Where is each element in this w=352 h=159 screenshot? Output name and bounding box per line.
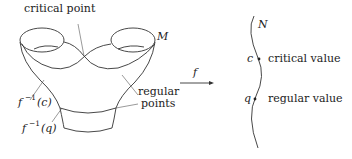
curve-N xyxy=(251,16,262,148)
label-value-q: q xyxy=(244,92,251,105)
leader-preimage-q xyxy=(52,108,62,122)
label-manifold-M: M xyxy=(156,30,169,43)
left-tube-inner xyxy=(34,46,58,49)
svg-text:−1: −1 xyxy=(25,93,36,102)
saddle-curve-a xyxy=(22,44,111,69)
lower-cylinder-right xyxy=(112,108,116,128)
label-regular-points-2: points xyxy=(141,97,176,110)
right-tube-inner xyxy=(118,46,144,49)
map-arrow-f: f xyxy=(180,66,214,85)
label-regular-value: regular value xyxy=(268,92,343,105)
point-c xyxy=(258,58,261,61)
right-tube-rim xyxy=(111,28,155,52)
leader-critical-point xyxy=(78,24,84,56)
label-critical-value: critical value xyxy=(268,52,341,65)
saddle-curve-b xyxy=(64,42,155,69)
label-preimage-c: f −1 (c) xyxy=(17,93,52,109)
surface-M xyxy=(20,28,155,132)
label-manifold-N: N xyxy=(257,18,268,31)
label-preimage-q: f −1 (q) xyxy=(21,119,57,135)
svg-text:−1: −1 xyxy=(29,119,40,128)
label-critical-point: critical point xyxy=(24,2,96,15)
lower-cylinder-left xyxy=(60,108,64,128)
svg-text:(c): (c) xyxy=(37,96,52,109)
label-map-f: f xyxy=(192,66,199,79)
lower-cylinder-bottom xyxy=(64,128,112,132)
label-value-c: c xyxy=(247,52,253,65)
svg-text:(q): (q) xyxy=(41,122,57,135)
morse-theory-diagram: critical point M f −1 (c) f −1 (q) regul… xyxy=(0,0,352,159)
left-tube-rim xyxy=(20,28,64,52)
level-curve-q xyxy=(60,108,116,113)
svg-text:f: f xyxy=(17,96,24,109)
svg-text:f: f xyxy=(21,122,28,135)
point-q xyxy=(254,98,257,101)
leader-regular-points-b xyxy=(116,104,138,108)
leader-regular-points-a xyxy=(122,75,138,95)
